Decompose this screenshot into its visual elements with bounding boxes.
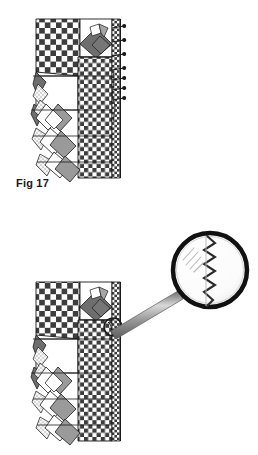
edge-checker-strip	[112, 282, 121, 441]
figure-17-caption: Fig 17	[16, 177, 49, 189]
figure-17: Fig 17	[0, 0, 258, 228]
left-patch-row-4	[36, 415, 80, 445]
magnifier-handle	[111, 291, 183, 339]
yoke-diamond-block	[80, 282, 112, 321]
body-checkerboard	[78, 320, 112, 441]
body-checkerboard	[78, 57, 112, 178]
magnifying-glass	[104, 233, 247, 339]
magnifier-lens	[173, 233, 247, 307]
figure-18: Fig 18	[0, 227, 258, 455]
yoke-checkerboard	[36, 282, 80, 339]
figure-17-artwork	[0, 0, 258, 228]
yoke-checkerboard	[36, 19, 80, 76]
garment-panel-18	[31, 282, 121, 445]
diagram-page: Fig 17	[0, 0, 258, 455]
yoke-diamond-block	[80, 19, 112, 58]
figure-18-artwork	[0, 227, 258, 455]
garment-panel-17	[31, 19, 126, 182]
